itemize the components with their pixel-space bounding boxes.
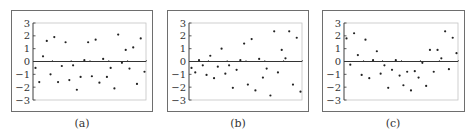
y-tick-label: 2 [335, 30, 341, 41]
data-point [391, 69, 393, 71]
data-point [395, 59, 397, 61]
y-tick-label: −3 [326, 95, 341, 106]
data-point [436, 49, 438, 51]
data-point [410, 89, 412, 91]
data-point [361, 74, 363, 76]
data-point [452, 37, 454, 39]
data-point [383, 64, 385, 66]
y-tick-label: 0 [335, 56, 341, 67]
data-point [425, 85, 427, 87]
y-tick-label: 1 [335, 43, 341, 54]
data-point [387, 87, 389, 89]
data-point [380, 73, 382, 75]
data-point [455, 52, 457, 54]
data-point [353, 32, 355, 34]
data-point [433, 71, 435, 73]
data-point [368, 77, 370, 79]
data-point [372, 59, 374, 61]
data-point [364, 39, 366, 41]
data-point [440, 57, 442, 59]
data-point [414, 70, 416, 72]
data-point [448, 68, 450, 70]
data-point [417, 76, 419, 78]
y-tick-label: −1 [326, 69, 341, 80]
panel-caption: (c) [373, 117, 413, 130]
data-point [429, 49, 431, 51]
data-point [421, 62, 423, 64]
data-point [349, 64, 351, 66]
data-point [357, 54, 359, 56]
data-point [406, 71, 408, 73]
data-point [402, 84, 404, 86]
data-point [444, 30, 446, 32]
y-tick-label: 3 [335, 18, 341, 29]
data-point [399, 75, 401, 77]
y-tick-label: −2 [326, 82, 341, 93]
data-point [376, 50, 378, 52]
data-point [345, 37, 347, 39]
